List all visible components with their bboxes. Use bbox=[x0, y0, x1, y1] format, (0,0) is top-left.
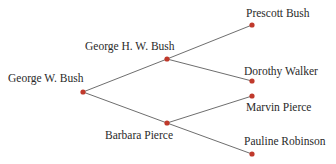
label-dorothy-walker: Dorothy Walker bbox=[244, 66, 318, 78]
label-prescott-bush: Prescott Bush bbox=[246, 8, 310, 20]
node-dw bbox=[249, 78, 254, 83]
label-pauline-robinson: Pauline Robinson bbox=[244, 136, 325, 148]
node-ghwb bbox=[164, 56, 169, 61]
label-george-w-bush: George W. Bush bbox=[8, 73, 84, 85]
label-marvin-pierce: Marvin Pierce bbox=[246, 102, 311, 114]
node-mp bbox=[249, 93, 254, 98]
node-pr bbox=[249, 151, 254, 156]
edge-ghwb-pb bbox=[167, 25, 252, 59]
edge-ghwb-dw bbox=[167, 59, 252, 81]
label-george-h-w-bush: George H. W. Bush bbox=[85, 41, 175, 53]
node-gwb bbox=[80, 89, 85, 94]
edge-gwb-bp bbox=[83, 92, 167, 123]
edge-bp-pr bbox=[167, 123, 252, 154]
edge-bp-mp bbox=[167, 96, 252, 123]
edge-gwb-ghwb bbox=[83, 59, 167, 92]
label-barbara-pierce: Barbara Pierce bbox=[105, 130, 173, 142]
node-bp bbox=[164, 120, 169, 125]
node-pb bbox=[249, 22, 254, 27]
